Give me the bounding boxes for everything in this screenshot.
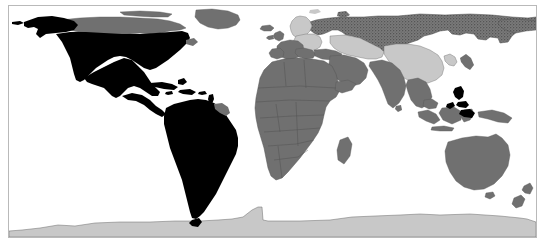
- world-map-container: Category A Category B Category C Categor…: [0, 0, 545, 250]
- world-map-svg: [0, 0, 545, 250]
